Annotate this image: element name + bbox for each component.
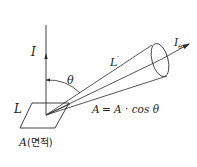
label-L-prime: ′ — [117, 55, 119, 63]
label-angle-theta: θ — [67, 74, 74, 87]
direction-arrowhead-icon — [182, 44, 190, 50]
label-intensity-theta: Iθ — [173, 36, 182, 50]
formula-rhs: = A · cos θ — [102, 103, 160, 115]
label-area-A: A — [18, 136, 27, 149]
normal-arrowhead-icon — [44, 53, 47, 59]
label-projected-area-formula: A′= A · cos θ — [91, 102, 160, 115]
label-area-korean: (면적) — [27, 137, 53, 148]
angle-arc — [46, 80, 80, 93]
label-L: L — [109, 56, 117, 69]
label-luminance-direction: L′ — [109, 55, 119, 69]
label-luminance-surface: L — [13, 102, 22, 116]
label-I-sub: θ — [178, 43, 182, 50]
label-intensity-normal: I — [30, 45, 36, 59]
angle-arc-arrowhead-icon — [46, 78, 50, 82]
luminance-diagram: I θ L′ Iθ L A′= A · cos θ A(면적) — [0, 0, 197, 167]
label-area: A(면적) — [18, 136, 53, 149]
surface-area-parallelogram — [20, 103, 69, 128]
